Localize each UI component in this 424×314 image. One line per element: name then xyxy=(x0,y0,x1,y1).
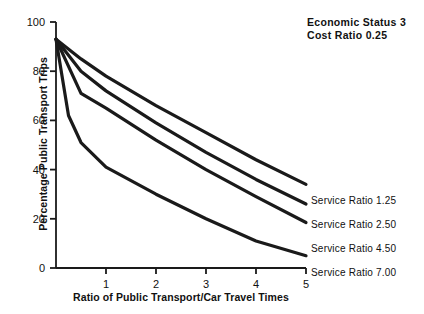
x-tick-label: 3 xyxy=(203,278,209,290)
x-tick-label: 5 xyxy=(303,278,309,290)
series-line-service-ratio-1-25 xyxy=(56,39,306,184)
series-line-service-ratio-2-50 xyxy=(56,39,306,204)
chart-axes xyxy=(56,22,306,268)
chart-page: Economic Status 3 Cost Ratio 0.25 020406… xyxy=(0,0,424,314)
x-axis-ticks: 12345 xyxy=(103,268,309,290)
series-line-service-ratio-7-00 xyxy=(56,39,306,255)
series-label-service-ratio-7-00: Service Ratio 7.00 xyxy=(311,267,396,278)
series-label-service-ratio-2-50: Service Ratio 2.50 xyxy=(311,219,396,230)
series-label-service-ratio-4-50: Service Ratio 4.50 xyxy=(311,243,396,254)
x-axis-title: Ratio of Public Transport/Car Travel Tim… xyxy=(56,291,306,303)
chart-series-group xyxy=(56,39,306,255)
y-tick-label: 100 xyxy=(27,16,45,28)
series-label-service-ratio-1-25: Service Ratio 1.25 xyxy=(311,195,396,206)
y-tick-label: 0 xyxy=(39,262,45,274)
y-axis-title: Percentage Public Transport Trips xyxy=(37,29,49,259)
x-tick-label: 4 xyxy=(253,278,259,290)
x-tick-label: 2 xyxy=(153,278,159,290)
x-tick-label: 1 xyxy=(103,278,109,290)
